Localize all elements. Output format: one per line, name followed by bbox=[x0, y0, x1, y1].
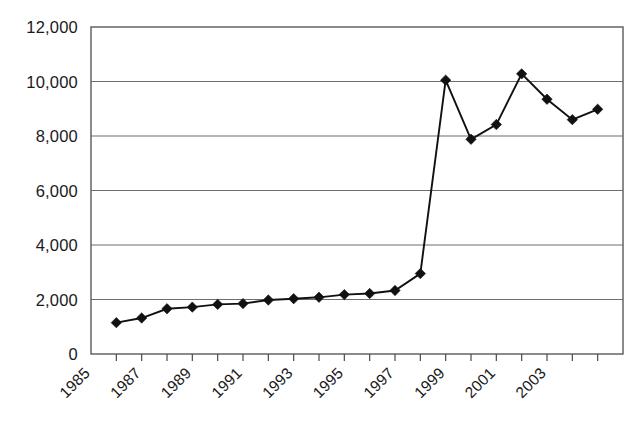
line-chart: 02,0004,0006,0008,00010,00012,0001985198… bbox=[0, 0, 643, 438]
y-axis-tick-label: 0 bbox=[69, 345, 78, 363]
x-axis-tick-label: 2001 bbox=[461, 364, 498, 401]
data-point-marker bbox=[162, 304, 172, 314]
data-point-marker bbox=[491, 119, 501, 129]
data-point-marker bbox=[187, 302, 197, 312]
y-axis-tick-label: 12,000 bbox=[26, 18, 78, 36]
data-point-marker bbox=[288, 293, 298, 303]
x-axis-tick-label: 1985 bbox=[56, 364, 93, 401]
data-point-marker bbox=[592, 104, 602, 114]
data-point-marker bbox=[415, 268, 425, 278]
x-axis-tick-label: 1993 bbox=[259, 364, 296, 401]
x-axis-tick-label: 1987 bbox=[107, 364, 144, 401]
y-axis-tick-label: 6,000 bbox=[36, 182, 78, 200]
x-axis-tick-label: 1995 bbox=[309, 364, 346, 401]
y-axis-tick-label: 10,000 bbox=[26, 73, 78, 91]
x-axis-tick-label: 2003 bbox=[512, 364, 549, 401]
x-axis-tick-label: 1997 bbox=[360, 364, 397, 401]
series-line bbox=[116, 74, 597, 323]
y-axis-tick-label: 2,000 bbox=[36, 291, 78, 309]
x-axis-tick-label: 1991 bbox=[208, 364, 245, 401]
chart-figure: 02,0004,0006,0008,00010,00012,0001985198… bbox=[0, 0, 643, 438]
data-point-marker bbox=[136, 313, 146, 323]
data-point-marker bbox=[440, 75, 450, 85]
data-point-marker bbox=[212, 299, 222, 309]
data-point-marker bbox=[390, 285, 400, 295]
x-axis-tick-label: 1999 bbox=[411, 364, 448, 401]
x-axis-tick-label: 1989 bbox=[157, 364, 194, 401]
y-axis-tick-label: 8,000 bbox=[36, 127, 78, 145]
data-point-marker bbox=[314, 292, 324, 302]
data-point-marker bbox=[364, 288, 374, 298]
data-point-marker bbox=[263, 295, 273, 305]
data-point-marker bbox=[339, 289, 349, 299]
data-point-marker bbox=[111, 317, 121, 327]
y-axis-tick-label: 4,000 bbox=[36, 236, 78, 254]
